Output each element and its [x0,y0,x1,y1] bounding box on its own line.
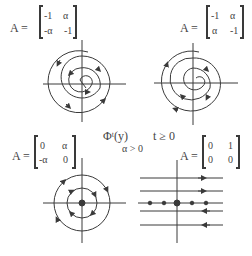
svg-text:A =: A = [10,21,28,35]
svg-text:α: α [63,10,69,21]
svg-text:1: 1 [228,140,233,151]
svg-text:0: 0 [208,154,213,165]
svg-text:0: 0 [63,154,68,165]
svg-text:-1: -1 [211,10,219,21]
svg-text:α > 0: α > 0 [122,143,143,154]
svg-text:-α: -α [44,25,53,36]
svg-text:A =: A = [180,21,198,35]
svg-text:t ≥ 0: t ≥ 0 [153,129,175,143]
svg-text:-1: -1 [64,25,72,36]
panel1-phase-portrait [43,40,126,122]
panel4-matrix-label: A = 0 1 0 0 [180,136,239,168]
svg-text:-α: -α [39,154,48,165]
svg-text:0: 0 [208,140,213,151]
panel4-phase-portrait [138,160,223,243]
panel2-matrix-label: A = -1 α α -1 [180,6,243,38]
svg-text:α: α [212,25,218,36]
svg-text:-1: -1 [230,25,238,36]
svg-text:Φᵗ(y): Φᵗ(y) [103,129,128,143]
panel3-phase-portrait [43,158,126,243]
flow-caption: Φᵗ(y) t ≥ 0 α > 0 [103,129,175,154]
svg-text:A =: A = [12,149,30,163]
svg-text:α: α [230,10,236,21]
panel3-matrix-label: A = 0 α -α 0 [12,136,75,168]
svg-text:A =: A = [180,149,198,163]
svg-text:0: 0 [40,140,45,151]
panel2-phase-portrait [154,43,238,125]
svg-text:0: 0 [228,154,233,165]
panel1-matrix-label: A = -1 α -α -1 [10,6,76,38]
svg-text:α: α [62,140,68,151]
phase-portraits-diagram: A = -1 α -α -1 A = -1 α α -1 [0,0,252,256]
svg-text:-1: -1 [44,10,52,21]
